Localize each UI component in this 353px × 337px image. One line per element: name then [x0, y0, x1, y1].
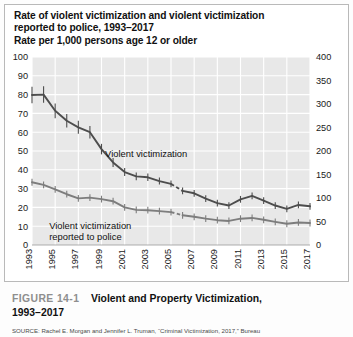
y-axis-tick-label-left: 90 — [18, 71, 28, 81]
y-axis-tick-label-left: 60 — [18, 128, 28, 138]
x-axis-tick-label: 2001 — [117, 249, 127, 269]
figure-caption-title-2: 1993–2017 — [12, 306, 347, 320]
y-axis-tick-label-left: 100 — [13, 52, 28, 62]
x-axis-tick-label: 2013 — [256, 249, 266, 269]
y-axis-tick-label-right: 300 — [316, 99, 331, 109]
figure-caption: FIGURE 14-1 Violent and Property Victimi… — [12, 292, 347, 319]
figure-source: SOURCE: Rachel E. Morgan and Jennifer L.… — [12, 327, 350, 335]
y-axis-tick-label-left: 70 — [18, 109, 28, 119]
figure-page: Rate of violent victimization and violen… — [0, 0, 353, 337]
y-axis-tick-label-right: 350 — [316, 76, 331, 86]
y-axis-tick-label-right: 250 — [316, 123, 331, 133]
x-axis-tick-label: 2003 — [140, 249, 150, 269]
y-axis-tick-label-left: 0 — [23, 240, 28, 250]
chart-plot-area: 0102030405060708090100050100150200250300… — [0, 0, 353, 337]
x-axis-tick-label: 1999 — [94, 249, 104, 269]
x-axis-tick-label: 2005 — [163, 249, 173, 269]
x-axis-tick-label: 2009 — [209, 249, 219, 269]
y-axis-tick-label-left: 80 — [18, 90, 28, 100]
x-axis-tick-label: 1995 — [47, 249, 57, 269]
x-axis-tick-label: 2011 — [233, 249, 243, 269]
x-axis-tick-label: 2015 — [279, 249, 289, 269]
y-axis-tick-label-left: 10 — [18, 222, 28, 232]
y-axis-tick-label-left: 40 — [18, 165, 28, 175]
figure-caption-title: Violent and Property Victimization, — [91, 293, 262, 304]
x-axis-tick-label: 2017 — [302, 249, 312, 269]
annotation-reported-to-police: Violent victimizationreported to police — [49, 220, 131, 242]
y-axis-tick-label-right: 50 — [316, 217, 326, 227]
y-axis-tick-label-left: 30 — [18, 184, 28, 194]
y-axis-tick-label-right: 150 — [316, 170, 331, 180]
y-axis-tick-label-left: 50 — [18, 146, 28, 156]
y-axis-tick-label-right: 200 — [316, 146, 331, 156]
figure-number: FIGURE 14-1 — [12, 293, 79, 304]
x-axis-tick-label: 1997 — [70, 249, 80, 269]
y-axis-tick-label-right: 0 — [316, 240, 321, 250]
y-axis-tick-label-right: 400 — [316, 52, 331, 62]
chart-svg: 0102030405060708090100050100150200250300… — [0, 0, 353, 337]
x-axis-tick-label: 2007 — [186, 249, 196, 269]
y-axis-tick-label-right: 100 — [316, 193, 331, 203]
y-axis-tick-label-left: 20 — [18, 203, 28, 213]
x-axis-tick-label: 1993 — [24, 249, 34, 269]
annotation-violent-victimization: Violent victimization — [105, 148, 187, 159]
